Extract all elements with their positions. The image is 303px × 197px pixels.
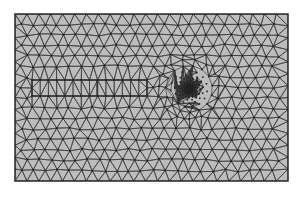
mesh-figure: Finite element triangular mesh <box>0 0 303 197</box>
mesh-canvas <box>0 0 303 197</box>
